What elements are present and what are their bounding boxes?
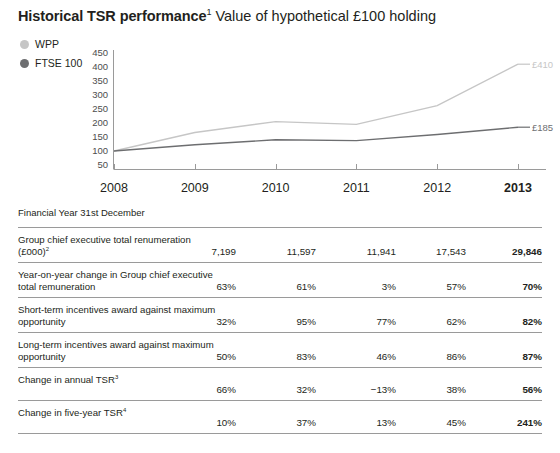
page-title-strong: Historical TSR performance: [18, 8, 206, 24]
metric-footnote-marker: 3: [115, 374, 118, 380]
metric-values: 66%32%−13%38%56%: [172, 382, 542, 395]
metric-footnote-marker: 2: [46, 245, 49, 251]
metric-value-cell: 10%: [166, 417, 236, 428]
metric-value-cell: 63%: [166, 281, 236, 292]
y-axis-tick-label: 400: [92, 61, 108, 72]
table-row: Change in five-year TSR410%37%13%45%241%: [18, 400, 542, 434]
metric-value-cell: 11,941: [326, 246, 396, 257]
y-axis-tick-label: 100: [92, 145, 108, 156]
table-subheading: Financial Year 31st December: [18, 207, 542, 227]
year-header-cell: 2010: [246, 181, 306, 195]
year-header-cell: 2008: [84, 181, 144, 195]
metric-value-cell: 32%: [166, 316, 236, 327]
metric-value-cell: 50%: [166, 351, 236, 362]
metric-value-cell: 77%: [326, 316, 396, 327]
year-header-cell: 2013: [488, 181, 548, 195]
y-axis-tick-label: 50: [97, 159, 108, 170]
table-row: Group chief executive total renumeration…: [18, 227, 542, 262]
metric-value-cell: 7,199: [166, 246, 236, 257]
metric-value-cell: 56%: [472, 384, 542, 395]
metric-value-cell: 29,846: [472, 246, 542, 257]
page-title-subtitle: Value of hypothetical £100 holding: [211, 8, 436, 24]
y-axis-tick-label: 350: [92, 75, 108, 86]
metric-values: 50%83%46%86%87%: [172, 349, 542, 362]
series-end-label-ftse100: £185: [532, 122, 553, 133]
year-header-cell: 2011: [326, 181, 386, 195]
metric-value-cell: 241%: [472, 417, 542, 428]
metric-values: 7,19911,59711,94117,54329,846: [172, 244, 542, 257]
metric-value-cell: 62%: [396, 316, 466, 327]
metric-value-cell: 46%: [326, 351, 396, 362]
year-header-row: 200820092010201120122013: [0, 181, 560, 203]
metric-value-cell: 13%: [326, 417, 396, 428]
metric-value-cell: 17,543: [396, 246, 466, 257]
metric-value-cell: 37%: [246, 417, 316, 428]
metric-value-cell: 38%: [396, 384, 466, 395]
y-axis-tick-label: 450: [92, 47, 108, 58]
y-axis-tick-label: 250: [92, 103, 108, 114]
metric-value-cell: 86%: [396, 351, 466, 362]
table-row: Long-term incentives award against maxim…: [18, 332, 542, 367]
metric-value-cell: 82%: [472, 316, 542, 327]
metric-values: 10%37%13%45%241%: [172, 415, 542, 428]
metric-value-cell: 83%: [246, 351, 316, 362]
page-title: Historical TSR performance1 Value of hyp…: [18, 7, 548, 25]
series-line-wpp: [114, 64, 518, 151]
x-axis-ticks: [115, 164, 519, 169]
metric-value-cell: 3%: [326, 281, 396, 292]
metric-value-cell: 11,597: [246, 246, 316, 257]
metric-values: 63%61%3%57%70%: [172, 279, 542, 292]
y-axis-tick-label: 200: [92, 117, 108, 128]
metrics-table: Financial Year 31st December Group chief…: [18, 207, 542, 434]
table-row: Change in annual TSR366%32%−13%38%56%: [18, 367, 542, 400]
metric-value-cell: 45%: [396, 417, 466, 428]
metric-footnote-marker: 4: [123, 407, 126, 413]
table-rows-host: Group chief executive total renumeration…: [18, 227, 542, 434]
metric-value-cell: 61%: [246, 281, 316, 292]
year-header-cell: 2012: [407, 181, 467, 195]
y-axis-tick-labels: 45040035030025020015010050: [92, 47, 108, 170]
metric-value-cell: 95%: [246, 316, 316, 327]
metric-value-cell: 87%: [472, 351, 542, 362]
metric-value-cell: −13%: [326, 384, 396, 395]
metric-value-cell: 66%: [166, 384, 236, 395]
year-header-cell: 2009: [165, 181, 225, 195]
metric-value-cell: 32%: [246, 384, 316, 395]
metric-values: 32%95%77%62%82%: [172, 314, 542, 327]
table-row: Year-on-year change in Group chief execu…: [18, 262, 542, 297]
series-end-label-wpp: £410: [532, 59, 553, 70]
table-row: Short-term incentives award against maxi…: [18, 297, 542, 332]
y-axis-tick-label: 300: [92, 89, 108, 100]
y-axis-tick-label: 150: [92, 131, 108, 142]
metric-value-cell: 70%: [472, 281, 542, 292]
metric-value-cell: 57%: [396, 281, 466, 292]
series-line-ftse100: [114, 127, 518, 151]
